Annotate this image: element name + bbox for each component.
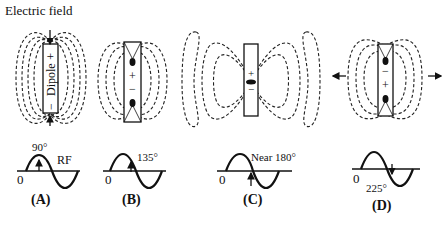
dipole-d-plus: +	[382, 78, 389, 92]
panel-label-b: (B)	[122, 192, 141, 208]
charge-d-bottom	[383, 95, 389, 103]
dipole-a-label: Dipole	[44, 63, 58, 96]
phase-label-a: 90°	[32, 141, 47, 153]
dipole-c-plus: +	[248, 67, 254, 79]
dipole-c-minus: −	[248, 83, 254, 95]
panel-label-d: (D)	[372, 198, 392, 214]
dipole-b-minus: −	[129, 82, 136, 96]
origin-label-d: 0	[353, 171, 360, 186]
charge-b-top	[130, 58, 136, 66]
origin-label-b: 0	[105, 172, 112, 187]
dipole-d-minus: −	[382, 64, 389, 78]
phase-label-c: Near 180°	[251, 151, 296, 163]
rf-label: RF	[57, 153, 72, 167]
phase-label-b: 135°	[137, 151, 158, 163]
charge-b-bottom	[130, 99, 136, 107]
title-electric-field: Electric field	[5, 3, 73, 18]
phase-label-d: 225°	[366, 182, 387, 194]
panel-label-a: (A)	[31, 192, 51, 208]
dipole-a-plus: +	[44, 53, 58, 60]
origin-label-a: 0	[17, 172, 24, 187]
dipole-radiation-diagram: Electric field Dipole + − 90° RF 0 (A) +…	[0, 0, 448, 226]
dipole-b-plus: +	[129, 69, 136, 83]
dipole-a-minus: −	[44, 103, 58, 110]
panel-label-c: (C)	[243, 192, 263, 208]
origin-label-c: 0	[219, 172, 226, 187]
